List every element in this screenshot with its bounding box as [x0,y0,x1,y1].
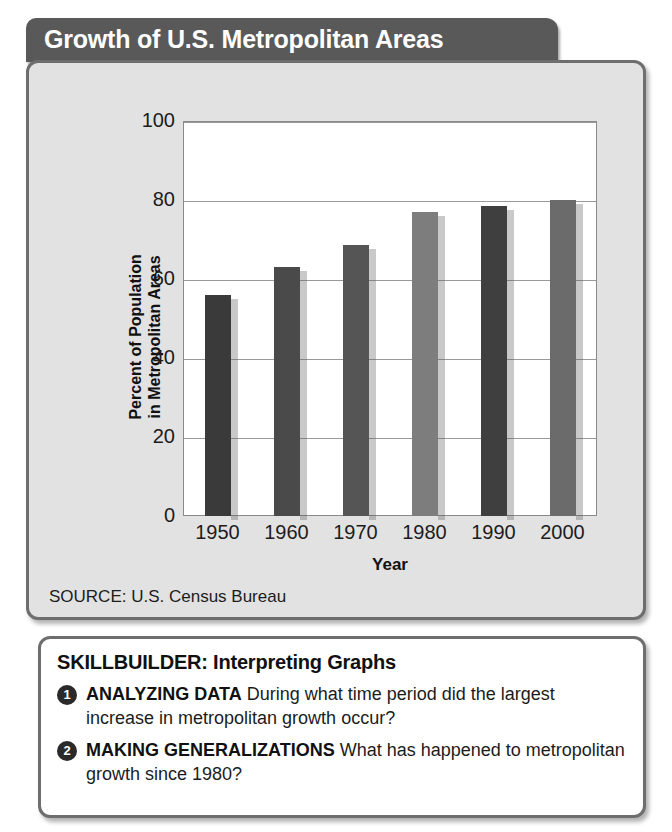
x-tick-label: 1990 [471,521,516,544]
x-tick-label: 1970 [333,521,378,544]
bar-shadow [438,216,445,520]
bar [550,200,576,516]
skillbuilder-item-label: MAKING GENERALIZATIONS [86,740,335,760]
source-note: SOURCE: U.S. Census Bureau [49,587,286,607]
bar-shadow [231,299,238,520]
chart-card: Percent of Population in Metropolitan Ar… [26,60,646,620]
y-tick-label: 20 [153,425,175,448]
bar [205,295,231,516]
bar [481,206,507,516]
skillbuilder-items: 1ANALYZING DATA During what time period … [57,683,627,787]
skillbuilder-item-label: ANALYZING DATA [86,684,242,704]
x-axis-title: Year [183,555,597,575]
skillbuilder-heading: SKILLBUILDER: Interpreting Graphs [57,651,627,674]
y-tick-label: 40 [153,346,175,369]
x-tick-label: 2000 [540,521,585,544]
y-tick-label: 80 [153,188,175,211]
skillbuilder-item-number: 1 [57,685,77,705]
skillbuilder-card: SKILLBUILDER: Interpreting Graphs 1ANALY… [38,636,646,818]
skillbuilder-item-number: 2 [57,741,77,761]
page-title: Growth of U.S. Metropolitan Areas [44,25,443,54]
bar-body [274,267,300,516]
x-tick-label: 1960 [264,521,309,544]
plot-wrapper: Percent of Population in Metropolitan Ar… [29,63,649,623]
figure-container: Growth of U.S. Metropolitan Areas Percen… [0,0,672,832]
bar-body [343,245,369,516]
x-tick-label: 1950 [195,521,240,544]
bar-body [412,212,438,516]
x-tick-label: 1980 [402,521,447,544]
bar-shadow [507,210,514,520]
bar-shadow [576,204,583,520]
bar-shadow [300,271,307,520]
bars-layer [183,121,597,516]
bar-body [205,295,231,516]
bar [412,212,438,516]
bar [274,267,300,516]
skillbuilder-item: 2MAKING GENERALIZATIONS What has happene… [57,739,627,787]
bar-shadow [369,249,376,520]
y-tick-label: 100 [142,109,175,132]
bar [343,245,369,516]
skillbuilder-item: 1ANALYZING DATA During what time period … [57,683,627,731]
bar-body [481,206,507,516]
y-axis-tick-labels: 020406080100 [121,121,175,516]
bar-body [550,200,576,516]
x-axis-tick-labels: 195019601970198019902000 [183,521,597,549]
y-tick-label: 0 [164,504,175,527]
y-tick-label: 60 [153,267,175,290]
figure-title-tab: Growth of U.S. Metropolitan Areas [26,18,558,62]
